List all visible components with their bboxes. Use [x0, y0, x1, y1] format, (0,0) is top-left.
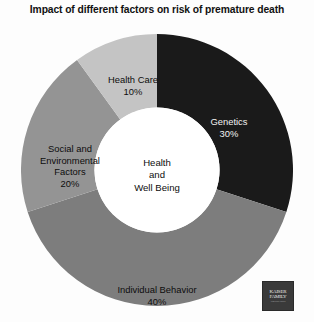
slice-label-genetics: Genetics 30%: [181, 116, 277, 139]
slice-label-individual-behavior: Individual Behavior 40%: [67, 284, 247, 307]
chart-title: Impact of different factors on risk of p…: [0, 3, 314, 16]
logo-line-3: FOUNDATION: [271, 300, 286, 303]
slice-label-health-care: Health Care 10%: [78, 74, 188, 97]
donut-chart: Genetics 30% Individual Behavior 40% Soc…: [21, 30, 293, 310]
chart-page: Impact of different factors on risk of p…: [0, 0, 314, 322]
donut-center-label: Health and Well Being: [107, 157, 207, 194]
kaiser-family-foundation-logo: KAISER FAMILY FOUNDATION: [262, 281, 294, 311]
